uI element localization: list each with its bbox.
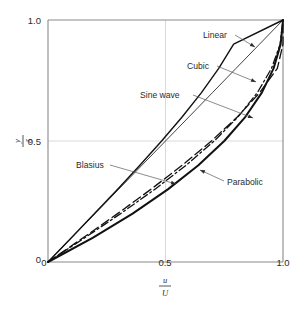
annotation-parabolic: Parabolic [227, 177, 264, 187]
y-axis-numerator: y [12, 139, 22, 144]
x-axis-numerator: u [163, 275, 167, 285]
x-axis-denominator: U [162, 288, 169, 298]
boundary-layer-profile-chart: 0 0.5 1.0 0 0.5 1.0 u U y δ Linear Cubic… [0, 0, 300, 310]
y-tick-0: 0 [36, 254, 41, 265]
x-tick-0: 0 [41, 257, 46, 268]
annotation-cubic: Cubic [187, 61, 210, 71]
y-tick-1.0: 1.0 [28, 15, 41, 26]
annotation-linear: Linear [203, 30, 227, 40]
annotation-blasius: Blasius [76, 160, 104, 170]
annotation-sine-wave: Sine wave [140, 90, 180, 100]
x-tick-1.0: 1.0 [276, 257, 289, 268]
velocity-profile-figure: 0 0.5 1.0 0 0.5 1.0 u U y δ Linear Cubic… [0, 0, 300, 310]
x-tick-0.5: 0.5 [158, 257, 171, 268]
